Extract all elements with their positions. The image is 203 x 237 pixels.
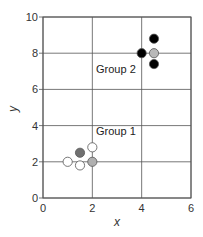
y-tick-label: 2 (32, 156, 38, 168)
tick-labels: 02460246810 (26, 11, 194, 214)
axes (39, 17, 191, 198)
x-tick-label: 0 (40, 202, 46, 214)
data-point (63, 157, 72, 166)
data-point (149, 49, 158, 58)
plot-frame (43, 17, 191, 198)
data-points (63, 34, 159, 170)
grid-lines (43, 17, 191, 198)
y-tick-label: 8 (32, 47, 38, 59)
annotations: Group 1Group 2 (96, 63, 136, 137)
data-point (75, 148, 84, 157)
y-axis-label: y (6, 105, 20, 113)
y-tick-label: 0 (32, 192, 38, 204)
x-axis-label: x (113, 215, 121, 229)
data-point (149, 34, 158, 43)
data-point (149, 59, 158, 68)
x-tick-label: 4 (139, 202, 145, 214)
y-tick-label: 6 (32, 83, 38, 95)
x-tick-label: 2 (89, 202, 95, 214)
data-point (75, 161, 84, 170)
scatter-chart: 02460246810 Group 1Group 2 x y (0, 0, 203, 237)
y-tick-label: 10 (26, 11, 38, 23)
y-tick-label: 4 (32, 120, 38, 132)
data-point (88, 157, 97, 166)
data-point (137, 49, 146, 58)
group-annotation: Group 2 (96, 63, 136, 75)
data-point (88, 143, 97, 152)
group-annotation: Group 1 (96, 125, 136, 137)
x-tick-label: 6 (188, 202, 194, 214)
